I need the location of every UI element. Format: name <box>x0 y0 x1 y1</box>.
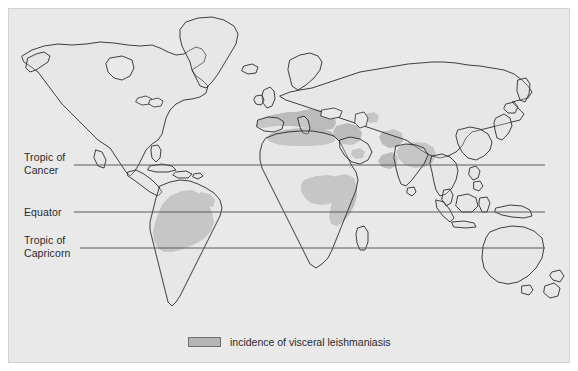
landmass-sri-lanka <box>407 187 416 196</box>
latitude-label-tropic-of-capricorn: Tropic of Capricorn <box>24 234 70 260</box>
landmass-south-america <box>150 180 222 306</box>
legend-label: incidence of visceral leishmaniasis <box>230 336 391 348</box>
latitude-label-line2: Capricorn <box>24 247 70 260</box>
latitude-label-equator: Equator <box>24 206 61 219</box>
coastlines-layer <box>22 17 564 306</box>
latitude-label-line1: Tropic of <box>24 151 65 164</box>
landmass-great-britain <box>262 87 275 108</box>
latitude-label-line1: Equator <box>24 206 61 219</box>
landmass-hokkaido <box>504 102 518 113</box>
landmass-philippines-2 <box>474 181 483 191</box>
landmass-australia <box>482 226 544 284</box>
landmass-java <box>452 221 476 228</box>
landmass-new-zealand-north <box>550 270 564 282</box>
landmass-florida <box>151 145 161 162</box>
landmass-hispaniola <box>173 171 192 178</box>
landmass-madagascar <box>356 226 368 250</box>
landmass-ireland <box>254 95 264 105</box>
landmass-philippines <box>469 166 480 180</box>
latitude-label-line2: Cancer <box>24 164 65 177</box>
landmass-new-zealand-south <box>544 283 560 298</box>
legend-color-swatch <box>188 337 221 347</box>
landmass-central-america <box>128 170 162 196</box>
landmass-great-lakes-2 <box>149 98 163 107</box>
world-map-graphic <box>0 0 578 371</box>
landmass-caspian-sea <box>355 112 368 128</box>
landmass-iceland <box>242 64 258 74</box>
latitude-label-tropic-of-cancer: Tropic of Cancer <box>24 151 65 177</box>
landmass-borneo <box>456 194 478 212</box>
landmass-tasmania <box>522 285 533 295</box>
landmass-iberia <box>257 117 284 132</box>
landmass-sulawesi <box>479 197 490 212</box>
map-page: Tropic of Cancer Equator Tropic of Capri… <box>0 0 578 371</box>
landmass-scandinavia <box>288 53 322 90</box>
latitude-label-line1: Tropic of <box>24 234 70 247</box>
landmass-black-sea <box>321 108 342 119</box>
landmass-puerto-rico <box>193 173 203 179</box>
map-legend: incidence of visceral leishmaniasis <box>188 336 391 348</box>
landmass-japan <box>494 114 512 140</box>
landmass-china-korea <box>456 127 492 160</box>
